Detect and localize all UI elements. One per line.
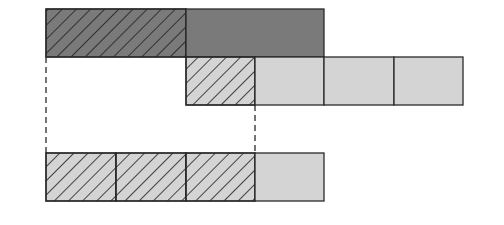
middle-row-cell-2	[255, 57, 324, 105]
diagram-canvas	[0, 0, 504, 225]
hatch-pattern	[46, 153, 116, 201]
hatch-pattern	[46, 9, 186, 57]
hatch-pattern	[116, 153, 186, 201]
middle-row-cell-3	[324, 57, 394, 105]
bottom-row	[46, 153, 324, 201]
hatch-pattern	[186, 153, 255, 201]
top-row-cell-2	[186, 9, 324, 57]
block-diagram	[0, 0, 504, 225]
middle-row	[186, 57, 463, 105]
hatch-pattern	[186, 57, 255, 105]
top-row	[46, 9, 324, 57]
middle-row-cell-4	[394, 57, 463, 105]
bottom-row-cell-4	[255, 153, 324, 201]
